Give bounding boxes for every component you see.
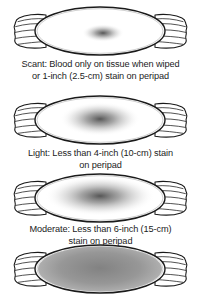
peripad-illustration-heavy [0,241,201,297]
caption-scant: Scant: Blood only on tissue when wiped o… [0,59,201,82]
caption-scant-line2: or 1-inch (2.5-cm) stain on peripad [0,71,201,83]
blood-stain-scant [82,24,124,42]
caption-light-line1: Light: Less than 4-inch (10-cm) stain [0,148,201,160]
blood-stain-light [60,102,140,136]
peripad-illustration-scant [0,3,201,59]
blood-stain-heavy [34,243,166,295]
peripad-assessment-figure: Scant: Blood only on tissue when wiped o… [0,0,201,298]
blood-stain-moderate [45,176,155,216]
caption-light: Light: Less than 4-inch (10-cm) stain on… [0,148,201,171]
caption-scant-line1: Scant: Blood only on tissue when wiped [0,59,201,71]
peripad-illustration-light [0,92,201,148]
peripad-illustration-moderate [0,170,201,226]
caption-moderate-line1: Moderate: Less than 6-inch (15-cm) [0,224,201,236]
